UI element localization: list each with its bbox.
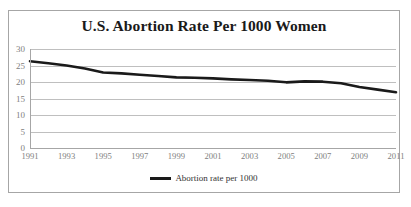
- legend-line-icon: [150, 177, 171, 180]
- y-axis-line: [30, 49, 31, 148]
- x-tick-label-2011: 2011: [388, 151, 405, 161]
- legend-item-label: Abortion rate per 1000: [175, 173, 257, 183]
- x-axis-tick-labels: 1991199319951997199920012003200520072009…: [30, 151, 396, 165]
- chart-figure: U.S. Abortion Rate Per 1000 Women 051015…: [8, 10, 400, 193]
- x-tick-label-2009: 2009: [351, 151, 368, 161]
- x-tick-label-2003: 2003: [241, 151, 258, 161]
- chart-legend: Abortion rate per 1000: [9, 173, 399, 183]
- y-axis-tick-labels: 051015202530: [9, 49, 28, 148]
- x-tick-label-1995: 1995: [95, 151, 112, 161]
- y-tick-label-10: 10: [16, 110, 25, 120]
- x-tick-label-1993: 1993: [58, 151, 75, 161]
- x-tick-label-1999: 1999: [168, 151, 185, 161]
- x-tick-label-2001: 2001: [204, 151, 221, 161]
- y-tick-label-15: 15: [16, 94, 25, 104]
- page-title: U.S. Abortion Rate Per 1000 Women: [9, 17, 399, 35]
- y-tick-label-5: 5: [21, 127, 26, 137]
- y-tick-label-20: 20: [16, 77, 25, 87]
- x-tick-label-2007: 2007: [314, 151, 331, 161]
- y-tick-label-25: 25: [16, 61, 25, 71]
- plot-area: [30, 49, 396, 148]
- x-tick-label-2005: 2005: [278, 151, 295, 161]
- x-tick-label-1991: 1991: [21, 151, 38, 161]
- y-tick-label-30: 30: [16, 44, 25, 54]
- gridline-y-0: [30, 148, 396, 149]
- x-tick-label-1997: 1997: [131, 151, 148, 161]
- series-line-abortion-rate: [30, 49, 396, 148]
